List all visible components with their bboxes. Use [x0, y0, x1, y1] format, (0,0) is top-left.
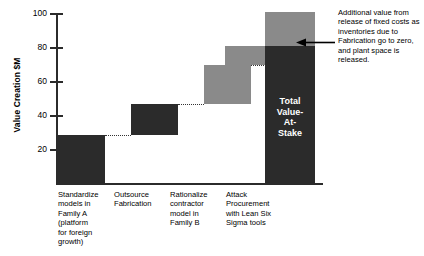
category-label-rationalize-contractor: Rationalize contractor model in Family B: [170, 190, 222, 228]
y-axis-title: Value Creation $M: [12, 45, 22, 145]
y-tick-label-40: 40: [21, 110, 47, 120]
annotation-text: Additional value from release of fixed c…: [338, 8, 424, 64]
y-tick-mark-60: [50, 81, 63, 83]
y-tick-mark-100: [50, 13, 63, 15]
annotation-arrow-icon: [296, 38, 336, 47]
y-tick-label-20: 20: [21, 144, 47, 154]
waterfall-chart: Value Creation $M 100 80 60 40 20 Total …: [0, 0, 424, 256]
y-tick-mark-80: [50, 47, 63, 49]
x-axis-line: [56, 183, 323, 185]
total-bar-inner-label: Total Value- At- Stake: [265, 96, 315, 138]
bar-standardize-models: [58, 135, 105, 183]
y-tick-label-80: 80: [21, 42, 47, 52]
y-tick-label-60: 60: [21, 76, 47, 86]
connector-2-3: [178, 104, 204, 105]
category-label-attack-procurement: Attack Procurement with Lean Six Sigma t…: [226, 190, 284, 228]
bar-outsource-fabrication: [131, 104, 178, 135]
connector-1-2: [105, 135, 131, 136]
y-tick-label-100: 100: [21, 8, 47, 18]
category-label-outsource-fabrication: Outsource Fabrication: [114, 190, 166, 209]
y-tick-mark-40: [50, 115, 63, 117]
category-label-standardize-models: Standardize models in Family A (platform…: [58, 190, 110, 246]
bar-rationalize-contractor: [204, 65, 251, 104]
